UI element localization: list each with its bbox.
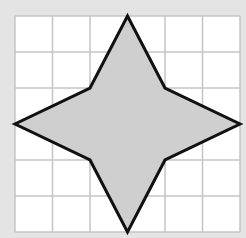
star-on-grid-diagram (0, 0, 246, 238)
